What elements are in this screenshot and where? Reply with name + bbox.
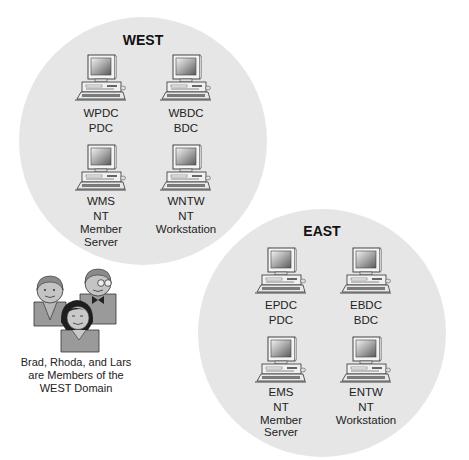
computer-role: PDC bbox=[89, 122, 113, 134]
group-of-people-icon bbox=[34, 269, 116, 352]
domain-east: EAST EPDC PDC EBDC BDC EMS NT Member Ser… bbox=[198, 209, 446, 457]
computer-hostname: WBDC bbox=[168, 107, 203, 119]
computer-hostname: WMS bbox=[87, 195, 115, 207]
computer-hostname: ENTW bbox=[349, 386, 383, 398]
computer-role: NT bbox=[93, 210, 108, 222]
users-caption-line: Brad, Rhoda, and Lars bbox=[21, 356, 132, 368]
computer-role: Workstation bbox=[156, 223, 217, 235]
computer-role: NT bbox=[273, 401, 288, 413]
users-caption-line: are Members of the bbox=[28, 369, 123, 381]
computer-role: Server bbox=[84, 236, 118, 248]
users-group: Brad, Rhoda, and Lars are Members of the… bbox=[21, 269, 132, 394]
computer-role: PDC bbox=[269, 314, 293, 326]
domain-diagram: WEST WPDC PDC WBDC BDC WMS NT Member Ser… bbox=[0, 0, 469, 460]
domain-west: WEST WPDC PDC WBDC BDC WMS NT Member Ser… bbox=[19, 17, 267, 265]
domain-circle bbox=[19, 17, 267, 265]
computer-role: Member bbox=[80, 223, 122, 235]
computer-hostname: EMS bbox=[269, 386, 294, 398]
computer-role: Member bbox=[260, 414, 302, 426]
computer-role: Server bbox=[264, 426, 298, 438]
computer-hostname: WPDC bbox=[83, 107, 118, 119]
domain-title: EAST bbox=[303, 223, 341, 239]
users-caption-line: WEST Domain bbox=[40, 382, 113, 394]
computer-hostname: EBDC bbox=[350, 299, 382, 311]
computer-role: NT bbox=[178, 210, 193, 222]
domain-circle bbox=[198, 209, 446, 457]
computer-hostname: WNTW bbox=[167, 195, 204, 207]
domain-title: WEST bbox=[123, 32, 164, 48]
computer-hostname: EPDC bbox=[265, 299, 297, 311]
computer-role: Workstation bbox=[336, 414, 397, 426]
computer-role: BDC bbox=[174, 122, 198, 134]
computer-role: NT bbox=[358, 401, 373, 413]
computer-role: BDC bbox=[354, 314, 378, 326]
